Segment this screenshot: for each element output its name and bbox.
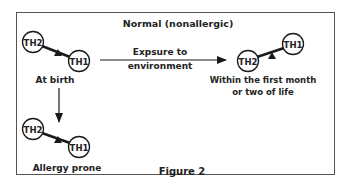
th1-label: TH1 [70,143,89,153]
later-label-line1: Within the first month [210,75,317,85]
arrow-label-line2: environment [128,61,193,71]
th1-label: TH1 [284,40,303,50]
later-label-line2: or two of life [232,87,294,97]
figure-title: Normal (nonallergic) [123,18,234,29]
at-birth-label: At birth [35,75,74,85]
th1-label: TH1 [70,57,89,67]
th2-label: TH2 [24,125,43,135]
th2-label: TH2 [24,38,43,48]
figure-caption: Figure 2 [159,166,206,177]
th2-label: TH2 [239,57,258,67]
arrow-label-line1: Expsure to [133,47,187,57]
allergy-prone-label: Allergy prone [33,163,102,173]
diagram-canvas: Normal (nonallergic) TH2 TH1 At birth Ex… [0,0,351,194]
